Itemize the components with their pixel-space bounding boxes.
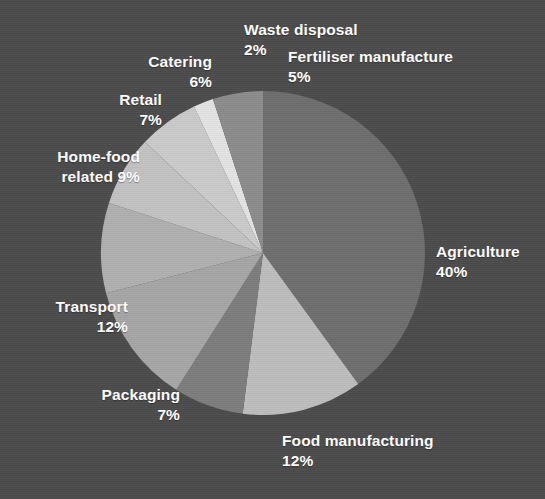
pie-label-fertiliser-manufacture: Fertiliser manufacture 5% [288,47,453,87]
pie-label-agriculture: Agriculture 40% [436,242,520,282]
pie-label-food-manufacturing: Food manufacturing 12% [282,431,434,471]
pie-slice-group [101,91,425,415]
pie-label-packaging: Packaging 7% [56,385,180,425]
pie-label-transport: Transport 12% [6,297,128,337]
pie-chart: Waste disposal 2% Fertiliser manufacture… [0,0,545,499]
pie-label-retail: Retail 7% [36,90,162,130]
pie-label-catering: Catering 6% [86,52,212,92]
pie-label-home-food-related: Home-food related 9% [8,147,140,187]
